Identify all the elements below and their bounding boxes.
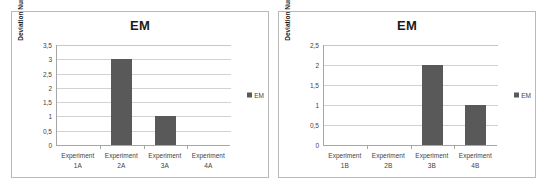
x-axis-ticks-a [57,145,230,149]
bar [111,59,132,145]
legend-a: EM [247,91,264,98]
bar-group-a [57,45,230,145]
x-tick-mark [367,145,368,149]
y-tick-label: 0 [26,142,52,149]
bar-chart-b: EM Deviation Number 00,511,522,5 Experim… [279,12,535,177]
x-tick-mark [411,145,412,149]
legend-swatch-icon [247,92,252,97]
y-axis-title-a: Deviation Number [15,0,26,61]
legend-label-b: EM [521,91,531,98]
bar [422,65,443,145]
chart-panel-a: EM Deviation Number 00,511,522,533,5 Exp… [11,11,269,178]
bar-chart-a: EM Deviation Number 00,511,522,533,5 Exp… [12,12,268,177]
x-tick-mark [144,145,145,149]
x-axis-labels-a: Experiment1AExperiment2AExperiment3AExpe… [56,151,230,171]
plot-area-a [56,45,230,146]
x-axis-label: Experiment3B [410,151,454,171]
y-tick-label: 0 [293,142,319,149]
x-axis-label: Experiment4A [187,151,231,171]
plot-area-b [323,45,497,146]
y-tick-label: 1,5 [293,82,319,89]
y-tick-label: 1 [26,113,52,120]
bar-slot [57,45,100,145]
y-axis-ticks-a: 00,511,522,533,5 [26,45,52,145]
y-tick-label: 3,5 [26,42,52,49]
x-axis-label: Experiment1A [56,151,100,171]
x-tick-mark [187,145,188,149]
x-axis-label: Experiment4B [454,151,498,171]
legend-b: EM [514,91,531,98]
bar-slot [367,45,410,145]
bar-slot [324,45,367,145]
y-axis-ticks-b: 00,511,522,5 [293,45,319,145]
y-tick-label: 2 [26,84,52,91]
y-tick-label: 2,5 [293,42,319,49]
y-axis-title-b: Deviation Number [282,0,293,61]
figure-two-bar-charts: EM Deviation Number 00,511,522,533,5 Exp… [0,0,548,194]
bar-slot [100,45,143,145]
chart-title-a: EM [12,18,268,33]
bar-slot [411,45,454,145]
x-axis-ticks-b [324,145,497,149]
x-axis-label: Experiment1B [323,151,367,171]
y-tick-label: 3 [26,56,52,63]
chart-title-b: EM [279,18,535,33]
x-tick-mark [100,145,101,149]
bar-slot [144,45,187,145]
legend-label-a: EM [254,91,264,98]
bar-group-b [324,45,497,145]
legend-swatch-icon [514,92,519,97]
x-axis-labels-b: Experiment1BExperiment2BExperiment3BExpe… [323,151,497,171]
y-tick-label: 2,5 [26,70,52,77]
bar-slot [454,45,497,145]
x-axis-label: Experiment2A [100,151,144,171]
bar-slot [187,45,230,145]
x-axis-label: Experiment2B [367,151,411,171]
bar [155,116,176,145]
y-tick-label: 0,5 [293,122,319,129]
y-tick-label: 1 [293,102,319,109]
y-tick-label: 0,5 [26,127,52,134]
chart-panel-b: EM Deviation Number 00,511,522,5 Experim… [278,11,536,178]
x-axis-label: Experiment3A [143,151,187,171]
x-tick-mark [454,145,455,149]
y-tick-label: 1,5 [26,99,52,106]
y-tick-label: 2 [293,62,319,69]
bar [465,105,486,145]
